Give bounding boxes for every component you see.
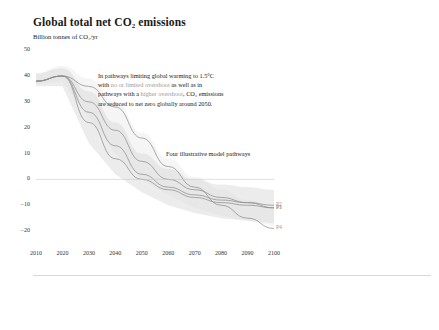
non-co2-panel: Non-CO₂ emissions relative to 2010 Emiss… bbox=[300, 0, 439, 272]
y-tick-label: 50 bbox=[6, 46, 30, 52]
x-tick-label: 2070 bbox=[182, 250, 208, 256]
y-tick-label: −10 bbox=[6, 201, 30, 207]
legend-divider bbox=[33, 275, 431, 276]
global-co2-panel: Global total net CO₂ emissions Billion t… bbox=[0, 0, 296, 272]
x-tick-label: 2040 bbox=[102, 250, 128, 256]
page-title: Global total net CO₂ emissions bbox=[33, 16, 186, 28]
x-tick-label: 2020 bbox=[49, 250, 75, 256]
y-tick-label: 0 bbox=[6, 175, 30, 181]
annotation-line-2c: as well as in bbox=[170, 81, 203, 88]
y-tick-label: −20 bbox=[6, 227, 30, 233]
annotation-line-1: In pathways limiting global warming to 1… bbox=[98, 72, 214, 79]
x-tick-label: 2060 bbox=[155, 250, 181, 256]
x-tick-label: 2010 bbox=[23, 250, 49, 256]
x-tick-label: 2090 bbox=[235, 250, 261, 256]
annotation-higher-overshoot: higher overshoot bbox=[141, 90, 184, 97]
x-tick-label: 2080 bbox=[208, 250, 234, 256]
x-tick-label: 2050 bbox=[129, 250, 155, 256]
annotation-no-limited-overshoot: no or limited overshoot bbox=[111, 81, 170, 88]
y-tick-label: 40 bbox=[6, 72, 30, 78]
x-tick-label: 2100 bbox=[261, 250, 287, 256]
x-tick-label: 2030 bbox=[76, 250, 102, 256]
legend: Timing of net zero CO₂ Line widths depic… bbox=[0, 275, 439, 330]
main-annotation: In pathways limiting global warming to 1… bbox=[98, 71, 284, 108]
figure-root: Global total net CO₂ emissions Billion t… bbox=[0, 0, 439, 330]
y-axis-unit-label: Billion tonnes of CO₂/yr bbox=[33, 33, 98, 40]
y-tick-label: 20 bbox=[6, 124, 30, 130]
four-pathways-label: Four illustrative model pathways bbox=[166, 150, 250, 157]
annotation-line-3a: pathways with a bbox=[98, 90, 141, 97]
y-tick-label: 30 bbox=[6, 98, 30, 104]
pathway-label-p4: P4 bbox=[276, 224, 282, 230]
annotation-line-4: are reduced to net zero globally around … bbox=[98, 100, 212, 107]
y-tick-label: 10 bbox=[6, 150, 30, 156]
annotation-line-2a: with bbox=[98, 81, 111, 88]
annotation-line-3c: , CO₂ emissions bbox=[183, 90, 224, 97]
pathway-label-p3: P3 bbox=[276, 204, 282, 210]
